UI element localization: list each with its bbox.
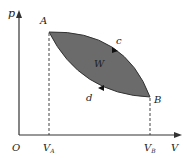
point-b-label: B bbox=[153, 94, 161, 105]
y-axis-label: p bbox=[8, 7, 15, 20]
y-axis-arrow-icon bbox=[16, 10, 22, 18]
point-a-label: A bbox=[39, 15, 47, 26]
x-axis-label: V bbox=[171, 142, 180, 153]
va-subscript: A bbox=[49, 147, 55, 154]
origin-label: O bbox=[12, 142, 20, 153]
vb-label: VB bbox=[144, 142, 156, 154]
x-axis-arrow-icon bbox=[174, 132, 182, 138]
pv-diagram: p A c W d B O VA VB V bbox=[0, 0, 187, 158]
va-label: VA bbox=[43, 142, 55, 154]
path-c-label: c bbox=[116, 35, 122, 46]
path-d-label: d bbox=[86, 92, 92, 103]
area-w-label: W bbox=[94, 58, 105, 69]
vb-subscript: B bbox=[150, 147, 156, 154]
